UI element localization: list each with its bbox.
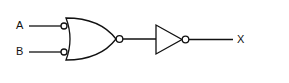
input-b-label: B xyxy=(16,46,23,57)
circuit-drawing xyxy=(0,0,289,83)
input-b-bubble xyxy=(61,49,67,55)
or-gate-output-bubble xyxy=(116,36,123,43)
input-a-bubble xyxy=(61,23,67,29)
input-a-label: A xyxy=(16,20,23,31)
inverter-output-bubble xyxy=(182,36,189,43)
inverter-body xyxy=(156,25,182,54)
output-x-label: X xyxy=(237,34,244,45)
logic-diagram: A B X xyxy=(0,0,289,83)
or-gate-body xyxy=(66,18,116,60)
